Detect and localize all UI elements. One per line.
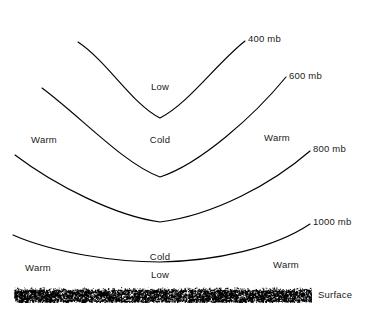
- annotation-low-lower: Low: [151, 270, 169, 280]
- annotation-warm-lower-left: Warm: [25, 263, 51, 273]
- annotation-low-upper: Low: [151, 82, 169, 92]
- ground-surface-band: [14, 287, 312, 303]
- annotation-cold-lower: Cold: [150, 252, 170, 262]
- pressure-cross-section-diagram: 400 mb 600 mb 800 mb 1000 mb Low Cold Wa…: [0, 0, 372, 314]
- annotation-warm-upper-right: Warm: [264, 133, 290, 143]
- isobar-label-400mb: 400 mb: [248, 34, 281, 44]
- annotation-cold-upper: Cold: [150, 135, 170, 145]
- annotation-warm-lower-right: Warm: [273, 260, 299, 270]
- surface-label: Surface: [318, 290, 352, 300]
- isobar-label-1000mb: 1000 mb: [313, 217, 351, 227]
- isobar-curve-400mb: [78, 41, 245, 118]
- isobar-label-600mb: 600 mb: [289, 71, 322, 81]
- annotation-warm-upper-left: Warm: [31, 135, 57, 145]
- isobar-curve-800mb: [15, 151, 310, 222]
- isobar-label-800mb: 800 mb: [313, 144, 346, 154]
- isobar-curves-group: [0, 0, 372, 314]
